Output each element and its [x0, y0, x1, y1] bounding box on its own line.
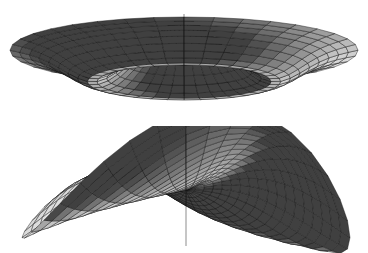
twisted-saddle-surface-svg [0, 126, 368, 253]
figure-page [0, 0, 368, 253]
volcano-surface-svg [0, 0, 368, 127]
surface-plot-top [0, 0, 368, 127]
surface-plot-bottom [0, 126, 368, 253]
